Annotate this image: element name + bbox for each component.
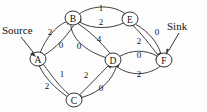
node-b[interactable]: B: [65, 11, 81, 25]
node-label-f: F: [161, 56, 166, 66]
graph-diagram: 2 0 1 2 0 4: [0, 0, 207, 112]
node-label-b: B: [70, 14, 76, 24]
annotation-pointer-source: [21, 37, 33, 52]
edge-label-b-e: 1: [99, 3, 104, 13]
edge-label-f-e: 2: [137, 36, 142, 46]
edge-label-c-d: 2: [84, 70, 89, 80]
annotation-label-source: Source: [2, 24, 33, 36]
edge-f-d: 2: [114, 64, 161, 79]
edge-b-a: 0: [39, 26, 73, 58]
node-label-a: A: [35, 55, 42, 65]
graph-canvas: 2 0 1 2 0 4: [0, 0, 207, 112]
edge-label-d-c: 0: [99, 83, 104, 93]
edge-c-d: 2: [79, 63, 113, 96]
edge-label-d-f: 0: [137, 50, 142, 60]
edge-a-b: 2: [41, 20, 72, 52]
edge-label-e-f: 0: [155, 27, 160, 37]
annotation-pointer-sink: [169, 33, 179, 50]
edge-label-a-b: 2: [48, 27, 53, 37]
node-c[interactable]: C: [66, 93, 82, 107]
edge-label-f-d: 2: [137, 69, 142, 79]
node-label-c: C: [71, 96, 77, 106]
annotation-label-sink: Sink: [167, 20, 188, 32]
node-d[interactable]: D: [105, 53, 121, 67]
node-label-e: E: [127, 15, 133, 25]
edge-label-c-a: 2: [45, 81, 50, 91]
edge-e-b: 2: [76, 17, 124, 28]
annotation-sink: Sink: [166, 20, 187, 55]
edge-path-d-b: [79, 24, 111, 53]
edge-label-b-d: 0: [77, 41, 82, 51]
node-label-d: D: [110, 56, 117, 66]
edge-b-e: 1: [80, 3, 129, 16]
node-e[interactable]: E: [122, 12, 138, 26]
edge-b-d: 0: [71, 26, 111, 62]
edge-label-b-a: 0: [59, 40, 64, 50]
annotation-source: Source: [2, 24, 36, 57]
node-f[interactable]: F: [156, 53, 172, 67]
edge-label-e-b: 2: [99, 17, 104, 27]
edge-label-a-c: 1: [60, 69, 65, 79]
edge-label-d-b: 4: [97, 34, 102, 44]
edge-c-a: 2: [37, 62, 67, 97]
